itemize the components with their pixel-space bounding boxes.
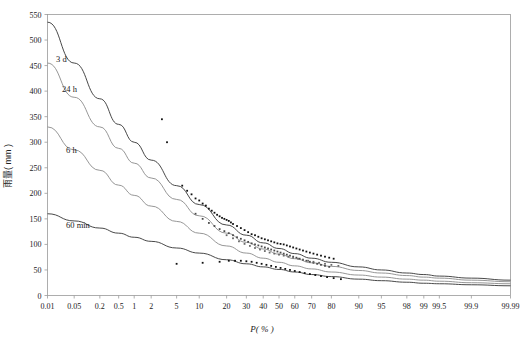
data-point — [195, 198, 197, 200]
data-point — [234, 260, 236, 262]
data-point — [297, 258, 299, 260]
data-point — [309, 252, 311, 254]
chart-background — [0, 0, 524, 341]
data-point — [267, 248, 269, 250]
data-point — [176, 263, 178, 265]
data-point — [256, 262, 258, 264]
data-point — [280, 243, 282, 245]
data-point — [280, 267, 282, 269]
data-point — [280, 252, 282, 254]
data-point — [221, 217, 223, 219]
data-point — [216, 214, 218, 216]
data-point — [320, 255, 322, 257]
curve-label-60-min: 60 min — [66, 220, 91, 230]
x-axis-tick-label: 99.9 — [464, 302, 478, 311]
data-point — [328, 266, 330, 268]
data-point — [284, 268, 286, 270]
x-axis-tick-label: 0.01 — [41, 302, 55, 311]
data-point — [273, 241, 275, 243]
y-axis-tick-label: 50 — [34, 266, 42, 275]
x-axis-tick-label: 95 — [377, 302, 385, 311]
x-axis-title: P( % ) — [249, 324, 274, 334]
data-point — [228, 260, 230, 262]
data-point — [292, 247, 294, 249]
x-axis-tick-label: 99.5 — [432, 302, 446, 311]
data-point — [228, 232, 230, 234]
data-point — [299, 271, 301, 273]
data-point — [195, 213, 197, 215]
data-point — [257, 245, 259, 247]
chart-canvas: 050100150200250300350400450500550 0.010.… — [0, 0, 524, 341]
data-point — [289, 269, 291, 271]
x-axis-tick-label: 20 — [223, 302, 231, 311]
data-point — [337, 265, 339, 267]
data-point — [289, 246, 291, 248]
data-point — [186, 190, 188, 192]
data-point — [307, 260, 309, 262]
data-point — [305, 260, 307, 262]
x-axis-tick-label: 70 — [308, 302, 316, 311]
data-point — [277, 251, 279, 253]
data-point — [191, 193, 193, 195]
data-point — [324, 256, 326, 258]
data-point — [226, 234, 228, 236]
y-axis-tick-label: 0 — [38, 292, 42, 301]
data-point — [247, 231, 249, 233]
data-point — [219, 228, 221, 230]
data-point — [318, 262, 320, 264]
data-point — [236, 236, 238, 238]
data-point — [278, 254, 280, 256]
data-point — [202, 203, 204, 205]
data-point — [232, 223, 234, 225]
data-point — [283, 244, 285, 246]
x-axis-tick-label: 99.99 — [502, 302, 520, 311]
data-point — [254, 234, 256, 236]
data-point — [251, 261, 253, 263]
data-point — [333, 277, 335, 279]
rainfall-frequency-chart: 050100150200250300350400450500550 0.010.… — [0, 0, 524, 341]
x-axis-tick-label: 0.05 — [67, 302, 81, 311]
data-point — [251, 242, 253, 244]
x-axis-tick-label: 50 — [275, 302, 283, 311]
curve-label-3-d: 3 d — [56, 54, 67, 64]
data-point — [232, 234, 234, 236]
data-point — [244, 243, 246, 245]
data-point — [299, 249, 301, 251]
data-point — [208, 222, 210, 224]
data-point — [238, 240, 240, 242]
data-point — [223, 218, 225, 220]
x-axis-tick-label: 10 — [195, 302, 203, 311]
data-point — [305, 251, 307, 253]
data-point — [181, 185, 183, 187]
data-point — [313, 253, 315, 255]
data-point — [309, 273, 311, 275]
data-point — [324, 265, 326, 267]
data-point — [166, 141, 168, 143]
data-point — [295, 248, 297, 250]
data-point — [324, 263, 326, 265]
data-point — [257, 236, 259, 238]
data-point — [214, 225, 216, 227]
y-axis-tick-label: 300 — [30, 138, 42, 147]
data-point — [230, 222, 232, 224]
x-axis-tick-label: 90 — [355, 302, 363, 311]
x-axis-tick-label: 0.5 — [114, 302, 124, 311]
data-point — [266, 264, 268, 266]
data-point — [211, 210, 213, 212]
data-point — [244, 229, 246, 231]
data-point — [254, 247, 256, 249]
data-point — [264, 238, 266, 240]
x-axis-tick-label: 40 — [259, 302, 267, 311]
data-point — [236, 225, 238, 227]
data-point — [288, 256, 290, 258]
data-point — [240, 238, 242, 240]
data-point — [214, 212, 216, 214]
data-point — [292, 257, 294, 259]
data-point — [198, 200, 200, 202]
data-point — [219, 261, 221, 263]
data-point — [219, 215, 221, 217]
data-point — [254, 244, 256, 246]
y-axis-tick-label: 400 — [30, 87, 42, 96]
x-axis-tick-label: 1 — [132, 302, 136, 311]
data-point — [340, 278, 342, 280]
